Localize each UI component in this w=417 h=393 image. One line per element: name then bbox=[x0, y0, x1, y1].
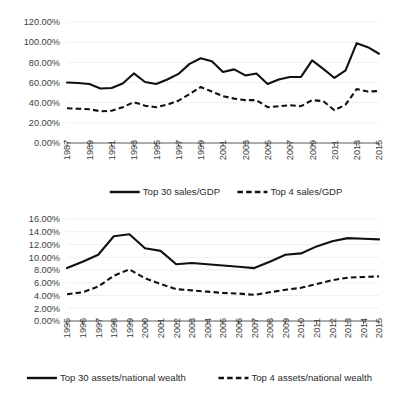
series-line-2 bbox=[67, 269, 379, 295]
sales-gdp-figure: 0.00%20.00%40.00%60.00%80.00%100.00%120.… bbox=[0, 0, 417, 205]
x-axis-tick-label: 1999 bbox=[125, 318, 135, 338]
series-line-1 bbox=[67, 43, 379, 88]
gridlines-group bbox=[67, 219, 379, 308]
series-group bbox=[67, 234, 379, 295]
legend: Top 30 assets/national wealthTop 4 asset… bbox=[27, 372, 372, 383]
series-line-2 bbox=[67, 87, 379, 111]
x-axis-tick-label: 1995 bbox=[152, 140, 162, 160]
x-axis-tick-label: 2000 bbox=[140, 318, 150, 338]
x-axis-tick-label: 1995 bbox=[62, 318, 72, 338]
y-axis-tick-label: 0.00% bbox=[34, 316, 60, 326]
series-line-1 bbox=[67, 234, 379, 268]
y-axis-tick-label: 2.00% bbox=[34, 304, 60, 314]
y-axis-tick-label: 12.00% bbox=[29, 240, 60, 250]
y-axis-tick-label: 4.00% bbox=[34, 291, 60, 301]
x-axis-tick-label: 2002 bbox=[172, 318, 182, 338]
series-group bbox=[67, 43, 379, 111]
legend-label-2: Top 4 sales/GDP bbox=[270, 186, 342, 197]
y-axis-tick-label: 40.00% bbox=[29, 98, 60, 108]
y-axis-tick-label: 60.00% bbox=[29, 78, 60, 88]
x-axis-tick-label: 2007 bbox=[285, 140, 295, 160]
x-axis-ticks-group: 1987198919911993199519971999200120032005… bbox=[62, 140, 384, 160]
legend-label-1: Top 30 assets/national wealth bbox=[60, 372, 186, 383]
y-axis-ticks-group: 0.00%2.00%4.00%6.00%8.00%10.00%12.00%14.… bbox=[29, 214, 60, 326]
y-axis-tick-label: 8.00% bbox=[34, 265, 60, 275]
y-axis-tick-label: 0.00% bbox=[34, 138, 60, 148]
x-axis-tick-label: 2005 bbox=[263, 140, 273, 160]
x-axis-tick-label: 2003 bbox=[187, 318, 197, 338]
x-axis-tick-label: 1998 bbox=[109, 318, 119, 338]
x-axis-ticks-group: 1995199619971998199920002001200220032004… bbox=[62, 318, 384, 338]
y-axis-tick-label: 14.00% bbox=[29, 227, 60, 237]
chart-page: 0.00%20.00%40.00%60.00%80.00%100.00%120.… bbox=[0, 0, 417, 393]
y-axis-tick-label: 120.00% bbox=[24, 17, 60, 27]
x-axis-tick-label: 2004 bbox=[203, 318, 213, 338]
x-axis-tick-label: 2014 bbox=[359, 318, 369, 338]
x-axis-tick-label: 2011 bbox=[330, 140, 340, 160]
x-axis-tick-label: 1999 bbox=[196, 140, 206, 160]
sales-gdp-chart: 0.00%20.00%40.00%60.00%80.00%100.00%120.… bbox=[0, 0, 417, 205]
assets-national-wealth-figure: 0.00%2.00%4.00%6.00%8.00%10.00%12.00%14.… bbox=[0, 205, 417, 393]
y-axis-tick-label: 20.00% bbox=[29, 118, 60, 128]
x-axis-tick-label: 2012 bbox=[328, 318, 338, 338]
x-axis-tick-label: 2013 bbox=[352, 140, 362, 160]
x-axis-tick-label: 2015 bbox=[374, 318, 384, 338]
y-axis-tick-label: 10.00% bbox=[29, 253, 60, 263]
x-axis-tick-label: 2013 bbox=[343, 318, 353, 338]
legend: Top 30 sales/GDPTop 4 sales/GDP bbox=[110, 186, 343, 197]
legend-label-2: Top 4 assets/national wealth bbox=[251, 372, 372, 383]
x-axis-tick-label: 2015 bbox=[374, 140, 384, 160]
x-axis-tick-label: 2009 bbox=[281, 318, 291, 338]
x-axis-tick-label: 1991 bbox=[107, 140, 117, 160]
x-axis-tick-label: 2001 bbox=[156, 318, 166, 338]
x-axis-tick-label: 2001 bbox=[218, 140, 228, 160]
x-axis-tick-label: 2011 bbox=[312, 318, 322, 338]
x-axis-tick-label: 2008 bbox=[265, 318, 275, 338]
x-axis-tick-label: 2007 bbox=[250, 318, 260, 338]
y-axis-tick-label: 100.00% bbox=[24, 37, 60, 47]
x-axis-tick-label: 1997 bbox=[94, 318, 104, 338]
x-axis-tick-label: 2010 bbox=[296, 318, 306, 338]
y-axis-ticks-group: 0.00%20.00%40.00%60.00%80.00%100.00%120.… bbox=[24, 17, 60, 148]
assets-national-wealth-chart: 0.00%2.00%4.00%6.00%8.00%10.00%12.00%14.… bbox=[0, 205, 417, 393]
x-axis-tick-label: 1987 bbox=[62, 140, 72, 160]
x-axis-tick-label: 2006 bbox=[234, 318, 244, 338]
legend-label-1: Top 30 sales/GDP bbox=[143, 186, 220, 197]
y-axis-tick-label: 16.00% bbox=[29, 214, 60, 224]
y-axis-tick-label: 6.00% bbox=[34, 278, 60, 288]
x-axis-tick-label: 2009 bbox=[308, 140, 318, 160]
y-axis-tick-label: 80.00% bbox=[29, 58, 60, 68]
x-axis-tick-label: 1989 bbox=[85, 140, 95, 160]
x-axis-tick-label: 1997 bbox=[174, 140, 184, 160]
x-axis-tick-label: 2003 bbox=[241, 140, 251, 160]
x-axis-tick-label: 1993 bbox=[129, 140, 139, 160]
x-axis-tick-label: 2005 bbox=[218, 318, 228, 338]
x-axis-tick-label: 1996 bbox=[78, 318, 88, 338]
